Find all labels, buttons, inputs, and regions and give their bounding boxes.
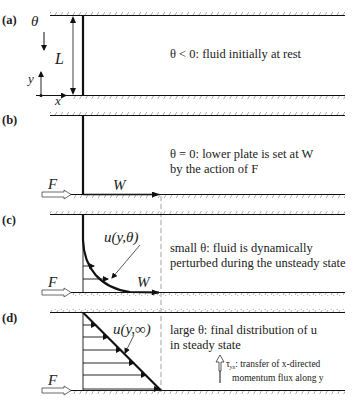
top-plate-hatch: [50, 12, 345, 15]
plate-velocity-label: W: [137, 274, 151, 290]
panel-label-b: (b): [2, 113, 17, 127]
force-label: F: [47, 274, 58, 290]
flux-symbol: τyx: transfer of x-directed: [226, 359, 321, 370]
flux-note-line2: momentum flux along y: [232, 373, 324, 383]
theta-time-label: θ: [31, 13, 39, 29]
couette-flow-diagram: (a) θ L y x θ < 0: fluid initially at re…: [0, 0, 359, 408]
momentum-flux-arrow-icon: [216, 355, 224, 371]
caption-b-line2: by the action of F: [170, 162, 258, 176]
caption-a: θ < 0: fluid initially at rest: [170, 47, 302, 61]
panel-label-a: (a): [2, 13, 17, 27]
caption-c-line2: perturbed during the unsteady state: [170, 256, 346, 270]
top-plate-hatch: [50, 309, 345, 312]
panel-b: (b) F W θ = 0: lower plate is set at W b…: [2, 112, 345, 199]
profile-leader-arrow-icon: [125, 335, 134, 353]
bottom-plate-hatch: [72, 391, 345, 394]
x-axis-label: x: [54, 93, 61, 108]
bottom-plate-hatch: [72, 293, 345, 296]
top-plate-hatch: [50, 211, 345, 214]
caption-d-line1: large θ: final distribution of u: [170, 323, 318, 337]
caption-b-line1: θ = 0: lower plate is set at W: [170, 147, 314, 161]
plate-velocity-label: W: [113, 177, 127, 193]
caption-c-line1: small θ: fluid is dynamically: [170, 241, 314, 255]
panel-label-c: (c): [2, 213, 16, 227]
gap-length-label: L: [54, 50, 64, 67]
dimension-arrow-up-icon: [70, 16, 76, 23]
panel-a: (a) θ L y x θ < 0: fluid initially at re…: [2, 12, 345, 108]
profile-leader-arrow-icon: [112, 245, 140, 278]
top-plate-hatch: [50, 112, 345, 115]
dimension-arrow-down-icon: [70, 88, 76, 95]
force-label: F: [47, 372, 58, 388]
panel-label-d: (d): [2, 311, 17, 325]
panel-d: (d) u(y,∞) F large θ: final distribution…: [2, 309, 345, 395]
force-label: F: [47, 176, 58, 192]
bottom-plate-hatch: [72, 96, 345, 99]
y-axis-label: y: [26, 71, 34, 86]
transient-profile-label: u(y,θ): [104, 229, 138, 246]
caption-d-line2: in steady state: [170, 338, 241, 352]
steady-profile-label: u(y,∞): [113, 321, 151, 338]
bottom-plate-hatch: [72, 195, 345, 198]
panel-c: (c) u(y,θ) F W small θ: fluid is dynamic…: [2, 211, 346, 297]
